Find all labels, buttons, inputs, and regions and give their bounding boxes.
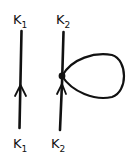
tadpole-loop: [62, 54, 124, 98]
diagram-canvas: K1 K2 K1 K2: [0, 0, 133, 167]
label-k1-bottom: K1: [13, 137, 27, 154]
label-k2-top: K2: [56, 13, 70, 30]
label-k2-bottom: K2: [51, 137, 65, 154]
left-propagator-line: [20, 31, 22, 128]
label-k1-top: K1: [13, 13, 27, 30]
vertex-dot: [59, 73, 66, 80]
right-propagator-line: [60, 32, 64, 130]
